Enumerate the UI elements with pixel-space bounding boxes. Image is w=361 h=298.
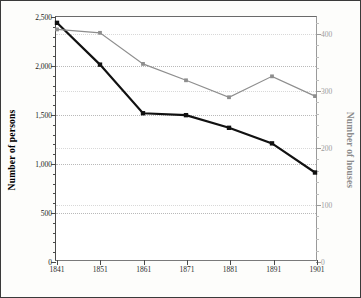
data-point-marker <box>227 126 231 130</box>
right-minor-tick <box>316 137 319 138</box>
chart-figure: Number of persons Number of houses 05001… <box>0 0 361 298</box>
x-tick-mark <box>230 260 231 265</box>
right-tick-mark <box>316 205 321 206</box>
data-point-marker <box>270 141 274 145</box>
left-tick-label: 1,000 <box>35 160 52 169</box>
left-tick-label: 2,000 <box>35 62 52 71</box>
x-tick-mark <box>187 260 188 265</box>
data-point-marker <box>55 28 59 32</box>
data-point-marker <box>98 31 102 35</box>
data-point-marker <box>184 78 188 82</box>
x-tick-label: 1901 <box>310 265 325 274</box>
x-tick-label: 1861 <box>136 265 151 274</box>
data-point-marker <box>141 111 145 115</box>
right-minor-tick <box>316 45 319 46</box>
plot-area: 05001,0001,5002,0002,5000100200300400184… <box>55 16 317 261</box>
data-point-marker <box>313 170 317 174</box>
right-tick-mark <box>316 148 321 149</box>
right-minor-tick <box>316 80 319 81</box>
x-tick-label: 1851 <box>93 265 108 274</box>
data-point-marker <box>227 95 231 99</box>
right-minor-tick <box>316 114 319 115</box>
right-tick-label: 100 <box>321 201 332 210</box>
x-tick-mark <box>317 260 318 265</box>
right-minor-tick <box>316 125 319 126</box>
right-tick-mark <box>316 91 321 92</box>
right-minor-tick <box>316 182 319 183</box>
right-minor-tick <box>316 68 319 69</box>
x-tick-label: 1841 <box>50 265 65 274</box>
x-tick-mark <box>100 260 101 265</box>
right-minor-tick <box>316 57 319 58</box>
x-tick-mark <box>144 260 145 265</box>
right-axis-title-text: Number of houses <box>345 112 355 188</box>
right-minor-tick <box>316 228 319 229</box>
data-point-marker <box>98 62 102 66</box>
data-point-marker <box>270 74 274 78</box>
data-point-marker <box>184 113 188 117</box>
x-tick-mark <box>57 260 58 265</box>
series-line <box>57 29 315 97</box>
right-minor-tick <box>316 194 319 195</box>
data-point-marker <box>313 94 317 98</box>
x-tick-label: 1891 <box>266 265 281 274</box>
right-tick-label: 200 <box>321 144 332 153</box>
right-minor-tick <box>316 239 319 240</box>
right-axis-title: Number of houses <box>341 1 359 298</box>
right-tick-mark <box>316 34 321 35</box>
right-minor-tick <box>316 216 319 217</box>
data-point-marker <box>141 62 145 66</box>
x-tick-label: 1871 <box>180 265 195 274</box>
left-tick-label: 2,500 <box>35 13 52 22</box>
x-tick-label: 1881 <box>223 265 238 274</box>
right-minor-tick <box>316 159 319 160</box>
x-tick-mark <box>274 260 275 265</box>
right-tick-label: 400 <box>321 30 332 39</box>
right-tick-label: 300 <box>321 87 332 96</box>
left-tick-label: 1,500 <box>35 111 52 120</box>
right-minor-tick <box>316 102 319 103</box>
left-tick-mark <box>51 262 56 263</box>
right-minor-tick <box>316 251 319 252</box>
left-axis-title: Number of persons <box>3 1 21 298</box>
left-axis-title-text: Number of persons <box>7 110 17 191</box>
data-point-marker <box>55 21 59 25</box>
series-layer <box>56 17 316 260</box>
series-line <box>57 23 315 173</box>
right-minor-tick <box>316 23 319 24</box>
